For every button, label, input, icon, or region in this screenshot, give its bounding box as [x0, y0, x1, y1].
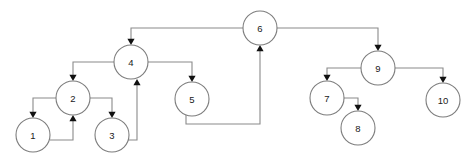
arrowhead-5-to-6	[256, 45, 263, 51]
node-label-7: 7	[324, 93, 329, 104]
node-3[interactable]: 3	[95, 118, 129, 152]
node-8[interactable]: 8	[341, 111, 375, 145]
node-7[interactable]: 7	[310, 81, 344, 115]
node-layer: 12345678910	[16, 11, 460, 152]
node-2[interactable]: 2	[56, 81, 90, 115]
edge-1-to-2	[50, 118, 73, 140]
edge-4-to-2	[73, 62, 114, 78]
node-label-2: 2	[70, 93, 75, 104]
node-5[interactable]: 5	[175, 82, 209, 116]
arrowhead-3-to-4	[133, 79, 140, 85]
arrowhead-7-to-8	[354, 105, 361, 111]
arrowhead-9-to-10	[439, 77, 446, 83]
node-label-6: 6	[257, 23, 262, 34]
node-label-9: 9	[375, 63, 380, 74]
arrowhead-2-to-3	[108, 112, 115, 118]
edge-6-to-9	[277, 28, 378, 48]
arrowhead-4-to-5	[188, 76, 195, 82]
edge-9-to-10	[395, 68, 443, 80]
node-10[interactable]: 10	[426, 83, 460, 117]
arrowhead-6-to-4	[127, 39, 134, 45]
graph-diagram: 12345678910	[0, 0, 474, 160]
node-label-3: 3	[109, 130, 114, 141]
node-label-10: 10	[438, 95, 449, 106]
edge-9-to-7	[327, 68, 361, 78]
node-9[interactable]: 9	[361, 51, 395, 85]
node-1[interactable]: 1	[16, 118, 50, 152]
edge-4-to-5	[148, 62, 192, 79]
edge-2-to-1	[33, 98, 56, 115]
node-label-1: 1	[30, 130, 35, 141]
arrowhead-4-to-2	[69, 75, 76, 81]
node-6[interactable]: 6	[243, 11, 277, 45]
graph-canvas: 12345678910	[0, 0, 474, 160]
node-4[interactable]: 4	[114, 45, 148, 79]
edge-2-to-3	[90, 98, 112, 115]
arrowhead-1-to-2	[69, 115, 76, 121]
node-label-5: 5	[189, 94, 194, 105]
arrowhead-9-to-7	[323, 75, 330, 81]
edge-6-to-4	[131, 28, 243, 42]
node-label-8: 8	[355, 123, 360, 134]
node-label-4: 4	[128, 57, 133, 68]
arrowhead-6-to-9	[374, 45, 381, 51]
arrowhead-2-to-1	[29, 112, 36, 118]
